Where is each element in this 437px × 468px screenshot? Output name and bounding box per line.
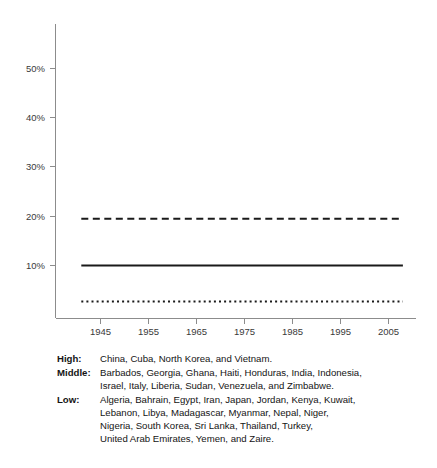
x-tick-label-2005: 2005	[378, 326, 399, 337]
x-tick-label-1995: 1995	[330, 326, 351, 337]
caption-line: United Arab Emirates, Yemen, and Zaire.	[100, 432, 427, 445]
x-tick-label-1975: 1975	[234, 326, 255, 337]
x-tick-label-1945: 1945	[90, 326, 111, 337]
caption-row: High: China, Cuba, North Korea, and Viet…	[0, 352, 437, 365]
caption-line: Algeria, Bahrain, Egypt, Iran, Japan, Jo…	[100, 393, 427, 406]
y-tick-label-20: 20%	[26, 211, 46, 222]
caption-line: Lebanon, Libya, Madagascar, Myanmar, Nep…	[100, 406, 427, 419]
y-tick-label-40: 40%	[26, 112, 46, 123]
chart-caption: High: China, Cuba, North Korea, and Viet…	[0, 352, 437, 445]
y-axis-tickmarks	[50, 69, 56, 266]
x-tick-label-1955: 1955	[138, 326, 159, 337]
y-tick-label-10: 10%	[26, 260, 46, 271]
x-axis-tickmarks	[101, 319, 389, 325]
caption-value-low: Algeria, Bahrain, Egypt, Iran, Japan, Jo…	[100, 393, 437, 445]
caption-line: Israel, Italy, Liberia, Sudan, Venezuela…	[100, 379, 427, 392]
series-layer	[81, 219, 403, 302]
caption-row: Middle: Barbados, Georgia, Ghana, Haiti,…	[0, 366, 437, 392]
caption-key-low: Low:	[57, 393, 100, 406]
caption-line: Nigeria, South Korea, Sri Lanka, Thailan…	[100, 419, 427, 432]
caption-value-middle: Barbados, Georgia, Ghana, Haiti, Hondura…	[100, 366, 437, 392]
caption-key-high: High:	[57, 352, 100, 365]
caption-line: China, Cuba, North Korea, and Vietnam.	[100, 352, 427, 365]
line-chart-plot: 50% 40% 30% 20% 10% 1945 1955 1965 1975 …	[0, 0, 437, 350]
chart-figure: 50% 40% 30% 20% 10% 1945 1955 1965 1975 …	[0, 0, 437, 350]
y-tick-label-50: 50%	[26, 63, 46, 74]
x-tick-label-1985: 1985	[282, 326, 303, 337]
caption-key-middle: Middle:	[57, 366, 100, 379]
caption-line: Barbados, Georgia, Ghana, Haiti, Hondura…	[100, 366, 427, 379]
caption-value-high: China, Cuba, North Korea, and Vietnam.	[100, 352, 437, 365]
caption-row: Low: Algeria, Bahrain, Egypt, Iran, Japa…	[0, 393, 437, 445]
y-tick-label-30: 30%	[26, 161, 46, 172]
x-tick-label-1965: 1965	[186, 326, 207, 337]
